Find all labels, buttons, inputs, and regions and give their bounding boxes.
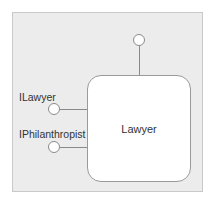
- iphilanthropist-connector: [60, 147, 87, 148]
- iphilanthropist-lollipop-icon: [48, 141, 60, 153]
- ilawyer-lollipop-icon: [48, 103, 60, 115]
- component-label: Lawyer: [121, 123, 156, 135]
- component-lawyer: Lawyer: [87, 75, 191, 182]
- interface-label-iphilanthropist: IPhilanthropist: [19, 128, 86, 140]
- top-interface-lollipop-icon: [133, 34, 145, 46]
- top-interface-connector: [139, 46, 140, 75]
- ilawyer-connector: [60, 109, 87, 110]
- interface-label-ilawyer: ILawyer: [19, 91, 56, 103]
